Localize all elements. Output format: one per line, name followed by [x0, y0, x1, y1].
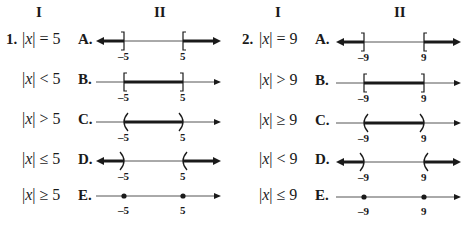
- number-line-2e: [0, 0, 468, 226]
- tick-label-pos: 9: [421, 205, 427, 217]
- tick-label-neg: –9: [358, 205, 369, 217]
